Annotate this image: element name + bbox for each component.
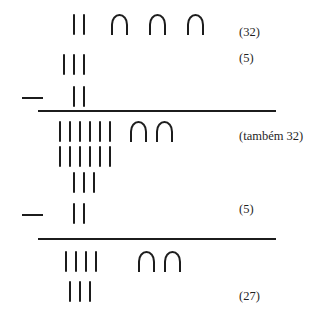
tally-stroke	[109, 146, 111, 167]
tally-stroke	[109, 121, 111, 142]
tally-stroke	[85, 251, 87, 272]
tally-stroke	[79, 121, 81, 142]
tally-stroke	[83, 86, 85, 107]
tally-stroke	[69, 281, 71, 302]
operation-rule	[38, 238, 276, 240]
tally-stroke	[73, 86, 75, 107]
tally-subtraction-figure: (32) (5) (também 32) (5)	[0, 0, 325, 320]
tally-arch	[149, 14, 166, 35]
tally-stroke	[83, 203, 85, 224]
tally-stroke	[73, 14, 75, 35]
tally-stroke	[83, 14, 85, 35]
tally-stroke	[73, 203, 75, 224]
tally-row	[59, 146, 119, 168]
tally-stroke	[89, 121, 91, 142]
tally-stroke	[89, 146, 91, 167]
tally-arch	[130, 121, 147, 142]
tally-stroke	[69, 146, 71, 167]
tally-row	[73, 14, 213, 36]
tally-stroke	[73, 54, 75, 75]
tally-row	[63, 54, 93, 76]
minus-operator	[22, 214, 43, 216]
tally-row	[69, 281, 99, 303]
tally-row	[73, 86, 93, 108]
tally-row	[59, 121, 182, 143]
tally-row	[73, 172, 103, 194]
annotation-label: (também 32)	[239, 130, 303, 143]
tally-stroke	[89, 281, 91, 302]
tally-arch	[138, 251, 155, 272]
annotation-label: (32)	[239, 26, 260, 39]
tally-arch	[111, 14, 128, 35]
tally-row	[73, 203, 93, 225]
tally-stroke	[95, 251, 97, 272]
tally-arch	[164, 251, 181, 272]
tally-row	[65, 251, 190, 273]
tally-stroke	[79, 146, 81, 167]
annotation-label: (27)	[239, 290, 260, 303]
annotation-label: (5)	[239, 203, 254, 216]
minus-operator	[22, 97, 43, 99]
tally-stroke	[93, 172, 95, 193]
tally-stroke	[99, 121, 101, 142]
operation-rule	[38, 110, 276, 112]
tally-stroke	[69, 121, 71, 142]
tally-stroke	[83, 54, 85, 75]
tally-stroke	[75, 251, 77, 272]
tally-stroke	[65, 251, 67, 272]
tally-arch	[156, 121, 173, 142]
tally-stroke	[59, 146, 61, 167]
tally-stroke	[73, 172, 75, 193]
tally-stroke	[83, 172, 85, 193]
annotation-label: (5)	[239, 52, 254, 65]
tally-stroke	[59, 121, 61, 142]
tally-stroke	[79, 281, 81, 302]
tally-arch	[187, 14, 204, 35]
tally-stroke	[99, 146, 101, 167]
tally-stroke	[63, 54, 65, 75]
